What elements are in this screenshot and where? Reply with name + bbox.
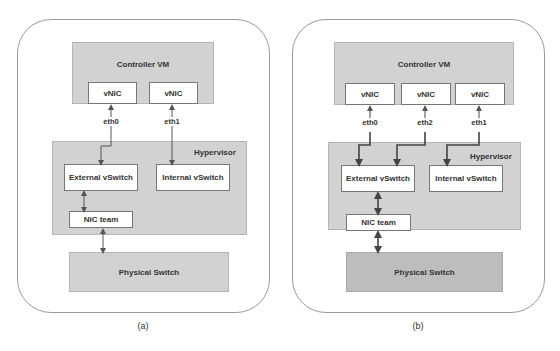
caption-b: (b) xyxy=(413,321,424,331)
eth-label-b-0: eth0 xyxy=(361,118,378,127)
eth-label-b-1: eth2 xyxy=(416,118,433,127)
eth-label-a-0: eth0 xyxy=(102,117,119,126)
eth-label-b-2: eth1 xyxy=(470,118,487,127)
eth-label-a-1: eth1 xyxy=(163,117,180,126)
caption-a: (a) xyxy=(138,321,149,331)
connector-lines xyxy=(0,0,560,351)
